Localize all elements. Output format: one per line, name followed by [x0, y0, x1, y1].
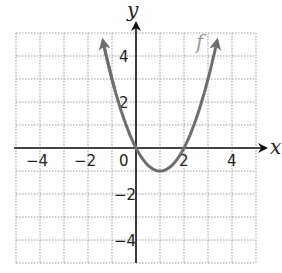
x-tick-label: 4 [227, 152, 237, 170]
curve-f-left-arrow [103, 41, 115, 88]
x-axis-label: x [270, 135, 281, 159]
curve-label-f: f [194, 30, 207, 54]
y-tick-label: −2 [114, 186, 136, 204]
y-tick-label: −4 [114, 232, 136, 250]
y-axis-label: y [126, 0, 139, 22]
x-tick-label: 0 [119, 152, 129, 170]
x-tick-label: −2 [74, 152, 96, 170]
parabola-chart: xy−4−202442−2−4f [0, 0, 282, 273]
y-tick-label: 4 [119, 48, 129, 66]
x-tick-label: −4 [26, 152, 48, 170]
